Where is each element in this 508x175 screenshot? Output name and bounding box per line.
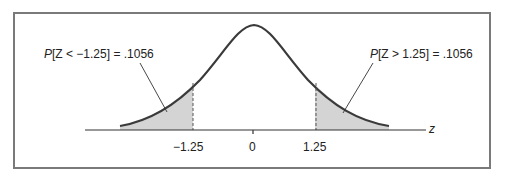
axis-label-z: z <box>429 122 435 136</box>
right-label-body: [Z > 1.25] = .1056 <box>378 47 473 61</box>
right-label-p: P <box>370 47 378 61</box>
tick-label-zero: 0 <box>249 140 256 154</box>
right-tail-label: P[Z > 1.25] = .1056 <box>370 47 473 61</box>
left-label-body: [Z < −1.25] = .1056 <box>52 47 154 61</box>
tick-label-pos: 1.25 <box>303 140 326 154</box>
leader-right <box>343 63 373 113</box>
left-tail-label: P[Z < −1.25] = .1056 <box>44 47 154 61</box>
bell-curve <box>120 25 389 126</box>
leader-left <box>140 63 167 112</box>
left-label-p: P <box>44 47 52 61</box>
tick-label-neg: −1.25 <box>173 140 203 154</box>
